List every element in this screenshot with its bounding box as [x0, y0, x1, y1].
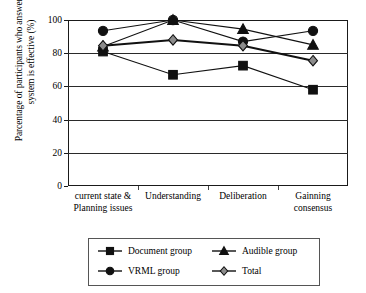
- legend-item-0[interactable]: Document group: [97, 245, 192, 257]
- legend-item-1[interactable]: Audible group: [211, 245, 297, 257]
- data-point-3-1: [169, 35, 178, 45]
- x-axis-labels: current state &Planning issuesUnderstand…: [58, 191, 364, 225]
- legend-item-3[interactable]: Total: [211, 265, 261, 277]
- y-tick-label-100: 100: [36, 15, 62, 25]
- y-tick-label-0: 0: [36, 181, 62, 191]
- legend-marker-triangle-icon: [211, 245, 237, 257]
- y-tick-label-60: 60: [36, 81, 62, 91]
- legend-label-0: Document group: [128, 246, 192, 256]
- x-tick-mark-3: [278, 186, 279, 190]
- data-point-2-3: [308, 26, 317, 35]
- y-tick-mark-0: [64, 186, 68, 187]
- series-layer: [68, 20, 348, 186]
- data-point-3-3: [309, 55, 318, 65]
- legend-label-3: Total: [242, 266, 261, 276]
- data-point-0-2: [239, 61, 248, 70]
- legend-marker-square-icon: [97, 245, 123, 257]
- legend-marker-diamond-icon: [211, 265, 237, 277]
- x-tick-mark-2: [208, 186, 209, 190]
- y-tick-label-80: 80: [36, 48, 62, 58]
- y-tick-label-20: 20: [36, 148, 62, 158]
- data-point-2-0: [98, 26, 107, 35]
- x-tick-mark-1: [138, 186, 139, 190]
- chart-legend: Document groupAudible groupVRML groupTot…: [88, 238, 320, 286]
- data-point-0-1: [169, 70, 178, 79]
- legend-marker-circle-icon: [97, 265, 123, 277]
- chart-figure: Parcentage of participants who answer th…: [0, 0, 366, 293]
- series-line-0: [103, 52, 313, 90]
- y-tick-label-40: 40: [36, 115, 62, 125]
- legend-label-2: VRML group: [128, 266, 180, 276]
- plot-area: 020406080100: [68, 20, 348, 186]
- series-line-3: [103, 40, 313, 61]
- x-axis-label-3: Gainningconsensus: [268, 191, 358, 214]
- legend-label-1: Audible group: [242, 246, 297, 256]
- data-point-2-1: [168, 15, 177, 24]
- legend-item-2[interactable]: VRML group: [97, 265, 180, 277]
- data-point-0-3: [309, 85, 318, 94]
